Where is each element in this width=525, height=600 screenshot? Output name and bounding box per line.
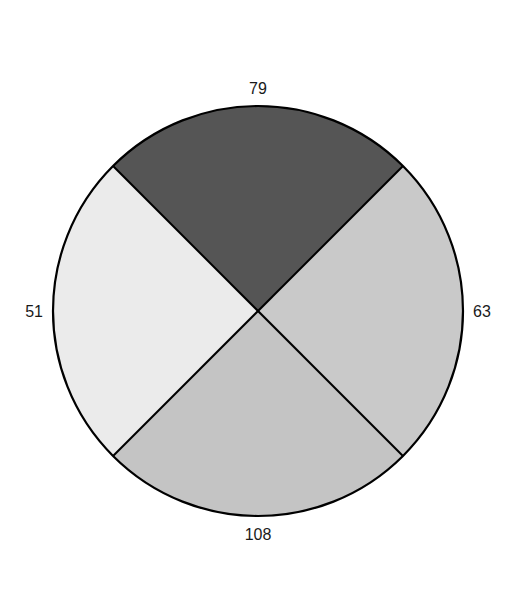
slice-label-right: 63 — [473, 303, 491, 320]
quadrant-pie-chart: 79 63 108 51 — [0, 0, 525, 600]
slice-label-left: 51 — [25, 303, 43, 320]
slice-label-bottom: 108 — [245, 526, 272, 543]
slice-label-top: 79 — [249, 80, 267, 97]
